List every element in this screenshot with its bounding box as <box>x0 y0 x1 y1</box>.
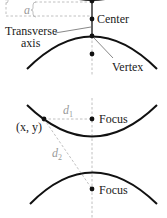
vertex-leader <box>94 38 113 58</box>
focus-bottom-dot <box>90 187 95 192</box>
vertex-dot <box>90 34 95 39</box>
d1-label: d1 <box>63 103 73 119</box>
upper-vertex-dot <box>90 0 95 3</box>
top-diagram: a Center Transverse axis Vertex <box>5 0 157 76</box>
point-dot <box>42 117 47 122</box>
a-label: a <box>24 3 30 17</box>
focus-bottom-label: Focus <box>99 183 128 197</box>
transverse-axis-leader <box>55 27 91 33</box>
focus-dot <box>90 52 95 57</box>
focus-top-label: Focus <box>99 112 128 126</box>
vertex-label: Vertex <box>112 60 143 74</box>
focus-top-dot <box>90 117 95 122</box>
a-brace <box>31 2 36 17</box>
point-label: (x, y) <box>16 120 42 134</box>
bottom-diagram: (x, y) d1 d2 Focus Focus <box>16 98 157 218</box>
center-label: Center <box>97 12 129 26</box>
d2-label: d2 <box>52 146 62 162</box>
hyperbola-diagram: a Center Transverse axis Vertex (x, y) d… <box>0 0 167 218</box>
center-dot <box>90 17 95 22</box>
transverse-axis-label-line2: axis <box>21 36 41 50</box>
